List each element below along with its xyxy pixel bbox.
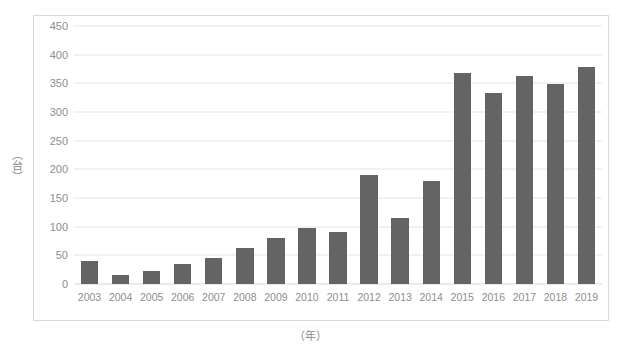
bar-slot [385, 26, 416, 284]
bar [112, 275, 129, 284]
y-axis-tick-label: 200 [34, 163, 68, 175]
bar [236, 248, 253, 284]
x-axis-tick-label: 2004 [105, 288, 136, 306]
bar-slot [323, 26, 354, 284]
y-axis-tick-label: 100 [34, 221, 68, 233]
bar [81, 261, 98, 284]
y-axis-tick-label: 0 [34, 278, 68, 290]
bar-slot [136, 26, 167, 284]
plot-area: 050100150200250300350400450 200320042005… [34, 16, 608, 320]
x-axis-tick-label: 2005 [136, 288, 167, 306]
x-axis-tick-label: 2014 [416, 288, 447, 306]
y-axis-title-text: （台） [9, 149, 25, 182]
x-axis-tick-label: 2013 [385, 288, 416, 306]
x-axis-tick-label: 2009 [260, 288, 291, 306]
bar-slot [416, 26, 447, 284]
x-axis-tick-label: 2016 [478, 288, 509, 306]
bar [391, 218, 408, 284]
x-axis-title-text: （年） [294, 330, 327, 342]
x-axis-title: （年） [0, 327, 621, 343]
bar [298, 228, 315, 284]
bar [143, 271, 160, 284]
x-axis-tick-label: 2007 [198, 288, 229, 306]
bar-slot [571, 26, 602, 284]
bar-slot [291, 26, 322, 284]
x-axis-tick-label: 2018 [540, 288, 571, 306]
bar-slot [105, 26, 136, 284]
x-axis-tick-label: 2017 [509, 288, 540, 306]
bar-slot [354, 26, 385, 284]
y-axis-tick-label: 350 [34, 77, 68, 89]
bar-slot [229, 26, 260, 284]
x-axis-tick-label: 2011 [323, 288, 354, 306]
bar [329, 232, 346, 284]
y-axis-tick-label: 450 [34, 20, 68, 32]
x-axis-tick-label: 2003 [74, 288, 105, 306]
bar-slot [447, 26, 478, 284]
bar [547, 84, 564, 284]
y-axis-title: （台） [2, 130, 32, 200]
y-axis-tick-label: 50 [34, 249, 68, 261]
bar [516, 76, 533, 284]
x-axis-tick-label: 2006 [167, 288, 198, 306]
bar [267, 238, 284, 284]
bar-slot [198, 26, 229, 284]
y-axis-tick-label: 250 [34, 135, 68, 147]
bar-slot [260, 26, 291, 284]
x-axis-tick-labels: 2003200420052006200720082009201020112012… [74, 288, 602, 306]
bar [485, 93, 502, 284]
x-axis-tick-label: 2008 [229, 288, 260, 306]
bar [205, 258, 222, 284]
y-axis-tick-label: 400 [34, 49, 68, 61]
x-axis-tick-label: 2012 [354, 288, 385, 306]
bar [578, 67, 595, 284]
bar [454, 73, 471, 284]
bar-slot [509, 26, 540, 284]
bar-slot [74, 26, 105, 284]
x-axis-tick-label: 2015 [447, 288, 478, 306]
bar [423, 181, 440, 284]
plot-frame: 050100150200250300350400450 200320042005… [33, 15, 609, 321]
bar [360, 175, 377, 284]
bar-chart-figure: （台） 050100150200250300350400450 20032004… [0, 0, 621, 351]
bar-slot [167, 26, 198, 284]
bar-slot [478, 26, 509, 284]
y-axis-tick-label: 150 [34, 192, 68, 204]
x-axis-tick-label: 2019 [571, 288, 602, 306]
bar [174, 264, 191, 284]
x-axis-tick-label: 2010 [291, 288, 322, 306]
bars-container [74, 26, 602, 284]
bar-slot [540, 26, 571, 284]
y-axis-tick-label: 300 [34, 106, 68, 118]
